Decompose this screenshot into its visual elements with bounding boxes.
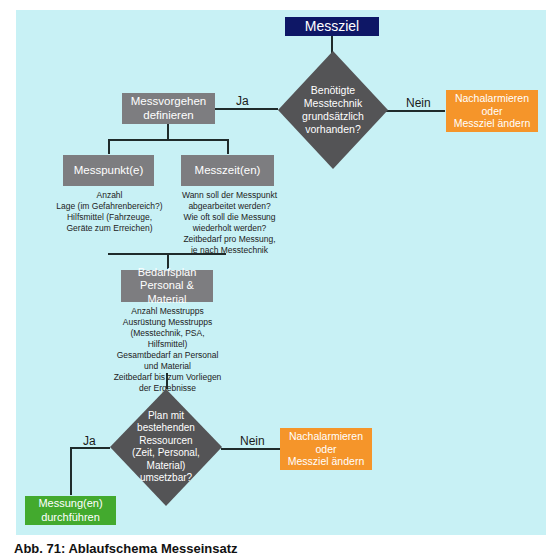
decision2-yes-label: Ja xyxy=(83,434,96,448)
measure-points-node: Messpunkt(e) xyxy=(63,155,154,186)
decision1-text: Benötigte Messtechnik grundsätzlich vorh… xyxy=(288,80,378,140)
start-node-messziel: Messziel xyxy=(285,17,379,36)
plan-notes: Anzahl Messtrupps Ausrüstung Messtrupps … xyxy=(110,306,225,394)
execute-node: Messung(en) durchführen xyxy=(25,496,116,525)
figure-caption: Abb. 71: Ablaufschema Messeinsatz xyxy=(14,541,237,556)
define-node: Messvorgehen definieren xyxy=(122,93,215,124)
connector-branch-right xyxy=(227,139,229,154)
decision1-yes-label: Ja xyxy=(236,94,249,108)
decision1-no-label: Nein xyxy=(406,96,431,110)
measure-points-notes: Anzahl Lage (im Gefahrenbereich?) Hilfsm… xyxy=(52,190,167,234)
measure-times-node: Messzeit(en) xyxy=(181,155,274,186)
connector-decision1-no xyxy=(385,110,445,112)
connector-decision2-no xyxy=(221,448,281,450)
decision2-no-label: Nein xyxy=(240,434,265,448)
plan-node: Bedarfsplan Personal & Material xyxy=(121,270,213,302)
connector-define-down xyxy=(167,124,169,140)
decision1-no-target: Nachalarmieren oder Messziel ändern xyxy=(446,90,538,132)
decision2-no-target: Nachalarmieren oder Messziel ändern xyxy=(280,428,372,470)
connector-branch-left xyxy=(108,139,110,154)
connector-decision1-yes xyxy=(214,108,278,110)
connector-define-branch xyxy=(108,139,228,141)
measure-times-notes: Wann soll der Messpunkt abgearbeitet wer… xyxy=(172,190,287,256)
decision2-text: Plan mit bestehenden Ressourcen (Zeit, P… xyxy=(126,404,206,490)
connector-decision2-yes-v xyxy=(70,447,72,495)
